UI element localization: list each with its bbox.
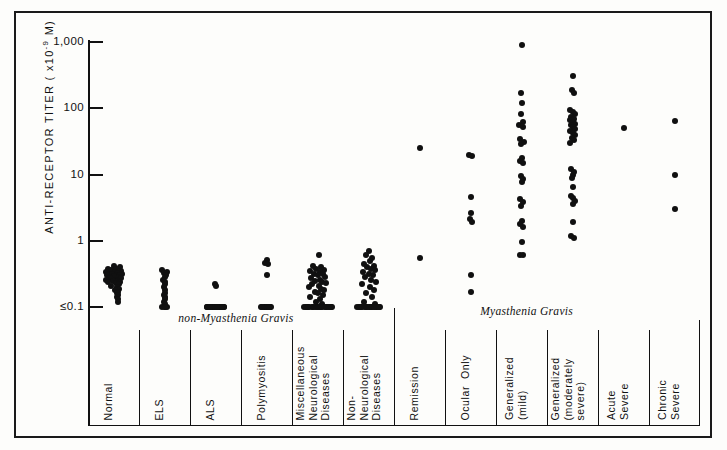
category-divider [394, 308, 395, 426]
category-label-line: (mild) [516, 390, 528, 420]
category-label-2: ELS [152, 398, 165, 420]
category-divider [190, 330, 191, 426]
data-point [363, 252, 369, 258]
category-label-line: Miscellaneous [293, 346, 305, 420]
category-label-10: Generalized(moderatelysevere) [548, 357, 586, 420]
category-label-line: Generalized [548, 357, 560, 420]
category-box-left-edge [88, 320, 90, 426]
y-axis-title-main: ANTI-RECEPTOR TITER ( x10 [43, 49, 55, 233]
group-header-1: non-Myasthenia Gravis [178, 312, 293, 324]
data-point [359, 281, 365, 287]
data-point [306, 284, 312, 290]
data-point [469, 153, 475, 159]
y-axis-title: ANTI-RECEPTOR TITER ( x10-9 M) [41, 17, 55, 237]
data-point [469, 219, 475, 225]
category-label-line: ELS [152, 398, 164, 420]
category-label-3: ALS [203, 398, 216, 420]
category-label-line: Generalized [503, 357, 515, 420]
data-point [373, 279, 379, 285]
data-point [264, 272, 270, 278]
figure-root: 1,000100101≤0.1 ANTI-RECEPTOR TITER ( x1… [0, 0, 727, 450]
category-label-12: ChronicSevere [656, 380, 681, 420]
category-label-line: Polymyositis [254, 354, 266, 420]
category-label-line: ALS [203, 398, 215, 420]
data-point [520, 224, 526, 230]
y-tick-label: 10 [30, 168, 84, 180]
data-point [207, 304, 213, 310]
data-point [519, 42, 525, 48]
data-point [570, 201, 576, 207]
category-label-line: Non- [344, 395, 356, 420]
data-point [571, 235, 577, 241]
data-point [570, 184, 576, 190]
data-point [316, 252, 322, 258]
data-point [571, 90, 577, 96]
category-label-1: Normal [101, 383, 114, 420]
group-header-2: Myasthenia Gravis [480, 305, 573, 317]
data-point [213, 283, 219, 289]
category-label-7: Remission [407, 366, 420, 420]
category-label-8: Ocular Only [458, 354, 471, 420]
category-label-line: Acute [605, 390, 617, 420]
category-axis-box: NormalELSALSPolymyositisMiscellaneousNeu… [88, 330, 700, 426]
data-point [570, 73, 576, 79]
category-label-line: Diseases [318, 372, 330, 420]
category-label-line: (moderately [561, 358, 573, 420]
data-point [307, 294, 313, 300]
category-label-line: Severe [669, 383, 681, 420]
data-point [417, 145, 423, 151]
category-label-line: Neurological [306, 354, 318, 420]
y-tick-label: 100 [30, 101, 84, 113]
data-point [519, 100, 525, 106]
data-point [468, 289, 474, 295]
category-divider [649, 330, 650, 426]
data-point [417, 255, 423, 261]
category-label-6: Non-NeurologicalDiseases [344, 354, 382, 420]
data-point [567, 140, 573, 146]
category-label-line: Diseases [369, 372, 381, 420]
data-point [518, 203, 524, 209]
category-divider [139, 330, 140, 426]
y-axis-title-exponent: -9 [41, 40, 50, 50]
category-label-line: Severe [618, 383, 630, 420]
data-point [468, 194, 474, 200]
data-point [518, 141, 524, 147]
data-point [371, 287, 377, 293]
category-label-11: AcuteSevere [605, 383, 630, 420]
data-point [468, 210, 474, 216]
category-label-line: Chronic [656, 380, 668, 420]
category-label-9: Generalized(mild) [503, 357, 528, 420]
data-point [519, 239, 525, 245]
category-divider [445, 330, 446, 426]
data-point [115, 299, 121, 305]
data-point [569, 175, 575, 181]
data-point [672, 172, 678, 178]
data-point [672, 118, 678, 124]
data-point [265, 261, 271, 267]
category-label-line: Remission [407, 366, 419, 420]
category-divider [496, 330, 497, 426]
category-label-5: MiscellaneousNeurologicalDiseases [293, 346, 331, 420]
scatter-plot-area [88, 30, 700, 315]
data-point [518, 111, 524, 117]
category-label-line: Normal [101, 383, 113, 420]
data-point [369, 294, 375, 300]
category-label-4: Polymyositis [254, 354, 267, 420]
data-point [672, 206, 678, 212]
category-label-line: Neurological [357, 354, 369, 420]
data-point [520, 124, 526, 130]
data-point [621, 125, 627, 131]
data-point [518, 90, 524, 96]
data-point [323, 280, 329, 286]
data-point [468, 272, 474, 278]
category-box-right-edge [699, 320, 701, 426]
category-divider [241, 330, 242, 426]
y-tick-label: 1 [30, 234, 84, 246]
data-point [266, 304, 272, 310]
data-point [520, 252, 526, 258]
category-label-line: severe) [573, 381, 585, 420]
data-point [362, 274, 368, 280]
category-label-line: Ocular Only [458, 354, 470, 420]
y-axis-title-unit: M) [43, 20, 55, 40]
data-point [520, 160, 526, 166]
